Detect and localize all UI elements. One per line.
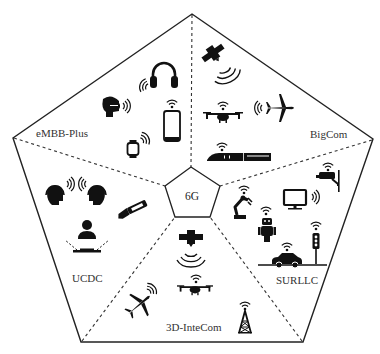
wireless-signal-icon [282, 243, 292, 251]
wireless-signal-icon [311, 222, 321, 230]
6g-scenarios-diagram: eMBB-Plus BigCom SURLLC 3D-InteCom UCDC … [0, 0, 380, 354]
wireless-signal-icon [138, 131, 151, 147]
holographic-head-icon [88, 185, 106, 205]
wireless-signal-icon [218, 102, 228, 110]
embb-plus-icons [102, 63, 180, 158]
wireless-signal-icon [261, 207, 271, 215]
drone-icon [203, 112, 243, 123]
wireless-signal-icon [323, 163, 333, 171]
diagram-canvas [0, 0, 380, 354]
smartwatch-icon [128, 140, 139, 158]
satellite-icon [179, 230, 203, 247]
segment-label-embb-plus: eMBB-Plus [36, 128, 88, 139]
wireless-signal-icon [212, 64, 243, 88]
wireless-signal-icon [217, 143, 227, 151]
satellite-icon [199, 40, 228, 68]
robot-arm-icon [234, 196, 252, 220]
surveillance-camera-icon [316, 170, 340, 192]
airplane-icon [266, 94, 294, 122]
segment-label-3d-intecom: 3D-InteCom [166, 322, 222, 333]
wireless-signal-icon [167, 100, 177, 108]
haptic-hand-icon [116, 200, 148, 221]
hologram-person-icon [65, 220, 109, 253]
surllc-icons [234, 163, 340, 268]
wireless-signal-icon [240, 302, 250, 310]
airplane-icon [119, 285, 158, 324]
holographic-head-icon [46, 185, 64, 205]
wireless-signal-icon [138, 78, 150, 94]
wireless-signal-icon [255, 101, 262, 115]
divider-top [191, 15, 192, 167]
segment-label-surllc: SURLLC [276, 275, 318, 286]
wireless-signal-icon [312, 190, 319, 204]
segment-label-bigcom: BigCom [310, 129, 347, 140]
segment-label-ucdc: UCDC [72, 273, 103, 284]
bigcom-icons [199, 40, 294, 161]
wireless-signal-icon [67, 177, 74, 191]
smartphone-icon [164, 111, 180, 141]
robot-icon [258, 218, 276, 242]
car-icon [272, 253, 302, 268]
monitor-icon [284, 190, 306, 210]
wireless-signal-icon [177, 254, 205, 267]
center-label-6g: 6G [185, 191, 199, 203]
ucdc-icons [46, 177, 148, 253]
headphones-icon [150, 63, 178, 88]
cell-tower-icon [238, 311, 252, 334]
vr-headset-icon [102, 96, 120, 117]
3d-intecom-icons [119, 230, 252, 334]
high-speed-train-icon [207, 153, 271, 161]
divider-right [220, 140, 372, 186]
divider-left [14, 138, 165, 186]
wireless-signal-icon [239, 186, 249, 194]
wireless-signal-icon [123, 99, 130, 113]
wireless-signal-icon [191, 275, 201, 283]
wireless-signal-icon [144, 281, 159, 296]
wireless-signal-icon [79, 177, 86, 191]
drone-icon [177, 285, 213, 295]
traffic-light-icon [313, 233, 320, 264]
